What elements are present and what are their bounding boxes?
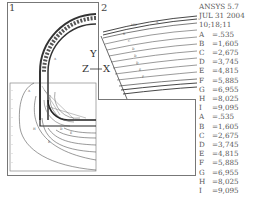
legend-time: 10;18;11 (199, 20, 256, 29)
legend-row: C=2,675 (199, 131, 256, 140)
legend-row: I=9,095 (199, 103, 256, 112)
legend-row: F=5,885 (199, 76, 256, 85)
legend-row: A=.535 (199, 30, 256, 39)
legend-row: B=1,605 (199, 39, 256, 48)
legend-row: D=3,745 (199, 140, 256, 149)
legend-row: G=6,955 (199, 85, 256, 94)
legend-row: H=8,025 (199, 94, 256, 103)
legend-row: G=6,955 (199, 168, 256, 177)
legend-row: I=9,095 (199, 186, 256, 195)
contour-legend: ANSYS 5.7 JUL 31 2004 10;18;11 A=.535 B=… (199, 2, 256, 195)
legend-row: A=.535 (199, 112, 256, 121)
legend-row: C=2,675 (199, 48, 256, 57)
legend-date: JUL 31 2004 (199, 11, 256, 20)
legend-row: E=4,815 (199, 149, 256, 158)
legend-row: E=4,815 (199, 66, 256, 75)
legend-title: ANSYS 5.7 (199, 2, 256, 11)
legend-row: F=5,885 (199, 158, 256, 167)
legend-row: H=8,025 (199, 177, 256, 186)
legend-row: B=1,605 (199, 122, 256, 131)
legend-row: D=3,745 (199, 57, 256, 66)
